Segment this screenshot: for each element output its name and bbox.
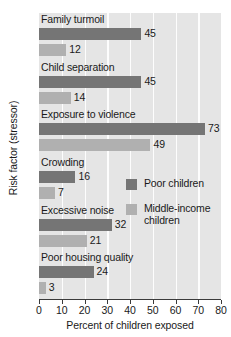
x-tick-label: 10	[56, 304, 68, 316]
bar-groups: Family turmoil4512Child separation4514Ex…	[39, 13, 221, 299]
bar-value-label: 32	[115, 218, 126, 230]
category-label: Excessive noise	[41, 204, 114, 216]
legend-label-middle: Middle-income children	[144, 203, 210, 226]
bar-value-label: 21	[90, 234, 101, 246]
legend-item-middle-income-children: Middle-income children	[126, 203, 210, 226]
bar-poor	[39, 123, 205, 135]
plot-area: Family turmoil4512Child separation4514Ex…	[39, 13, 221, 299]
x-tick-label: 20	[79, 304, 91, 316]
bar-poor	[39, 76, 141, 88]
bar-middle	[39, 92, 71, 104]
x-tick-label: 40	[124, 304, 136, 316]
category-label: Child separation	[41, 61, 114, 73]
x-tick-label: 30	[101, 304, 113, 316]
legend-swatch-icon-poor	[126, 179, 137, 190]
category-label: Crowding	[41, 156, 84, 168]
bar-value-label: 45	[144, 27, 155, 39]
bar-value-label: 73	[208, 122, 219, 134]
category-label: Family turmoil	[41, 13, 104, 25]
legend-label-poor: Poor children	[144, 178, 204, 190]
bar-middle	[39, 139, 150, 151]
category-label: Poor housing quality	[41, 251, 133, 263]
x-axis-title: Percent of children exposed	[39, 319, 221, 331]
bar-value-label: 24	[97, 265, 108, 277]
bar-poor	[39, 28, 141, 40]
bar-value-label: 12	[69, 43, 80, 55]
legend-swatch-icon-middle	[126, 204, 137, 215]
bar-group: Exposure to violence7349	[39, 108, 221, 156]
bar-middle	[39, 187, 55, 199]
bar-middle	[39, 235, 87, 247]
bar-value-label: 7	[58, 186, 64, 198]
y-axis-title: Risk factor (stressor)	[7, 48, 19, 248]
bar-poor	[39, 171, 75, 183]
bar-middle	[39, 282, 46, 294]
x-tick-label: 0	[36, 304, 42, 316]
category-label: Exposure to violence	[41, 108, 135, 120]
bar-group: Child separation4514	[39, 61, 221, 109]
bar-group: Poor housing quality243	[39, 251, 221, 299]
bar-poor	[39, 266, 94, 278]
legend-item-poor-children: Poor children	[126, 178, 204, 190]
x-tick-label: 50	[147, 304, 159, 316]
bar-group: Family turmoil4512	[39, 13, 221, 61]
bar-value-label: 45	[144, 75, 155, 87]
x-tick-label: 60	[170, 304, 182, 316]
bar-middle	[39, 44, 66, 56]
bar-chart: Risk factor (stressor) Family turmoil451…	[0, 0, 231, 337]
bar-value-label: 16	[78, 170, 89, 182]
x-axis-tick-labels: 01020304050607080	[39, 304, 221, 318]
x-tick-label: 70	[192, 304, 204, 316]
bar-value-label: 3	[49, 281, 55, 293]
x-tick-label: 80	[215, 304, 227, 316]
bar-value-label: 49	[153, 138, 164, 150]
bar-value-label: 14	[74, 91, 85, 103]
bar-poor	[39, 219, 112, 231]
